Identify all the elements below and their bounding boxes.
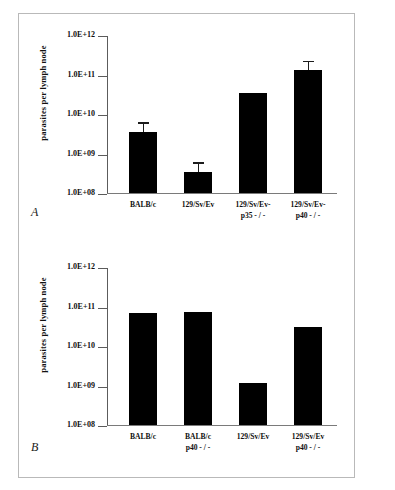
panel-b-ytick-label-1e10: 1.0E+10 [67, 341, 95, 350]
panel-a-ytick-1e12: 1.0E+12 [98, 36, 107, 37]
panel-b-ytick-label-1e09: 1.0E+09 [67, 381, 95, 390]
panel-a-letter: A [31, 205, 38, 220]
panel-a-y-axis-line [107, 36, 108, 194]
panel-a-ytick-1e10: 1.0E+10 [98, 115, 107, 116]
panel-a-x-axis-line [107, 193, 337, 194]
panel-a-xlabel-129svev-p40-line1: 129/Sv/Ev- [271, 199, 345, 210]
panel-b-x-axis-line [107, 425, 337, 426]
panel-a-bar-129svev [184, 172, 212, 194]
panel-b-ytick-label-1e12: 1.0E+12 [67, 262, 95, 271]
panel-a-errorbar-129svev-p40 [308, 62, 309, 71]
panel-a-plot-area: 1.0E+12 1.0E+11 1.0E+10 1.0E+09 1.0E+08 [107, 36, 337, 194]
panel-b-ytick-1e11: 1.0E+11 [98, 308, 107, 309]
panel-b-xlabel-129svev-p40: 129/Sv/Ev p40 - / - [271, 431, 345, 453]
panel-a-ytick-label-1e12: 1.0E+12 [67, 30, 95, 39]
panel-b-ytick-1e12: 1.0E+12 [98, 268, 107, 269]
panel-a-ytick-1e11: 1.0E+11 [98, 76, 107, 77]
panel-a-errorbar-129svev [198, 163, 199, 172]
panel-a-ytick-1e09: 1.0E+09 [98, 155, 107, 156]
panel-a-bar-129svev-p35 [239, 93, 267, 194]
panel-a-bar-balbc [129, 132, 157, 193]
panel-b-xlabel-129svev-p40-line2: p40 - / - [271, 442, 345, 453]
panel-b-letter: B [31, 440, 38, 455]
panel-a: A parasites per lymph node 1.0E+12 1.0E+… [19, 14, 356, 246]
panel-a-y-axis-title: parasites per lymph node [38, 23, 48, 163]
panel-b-ytick-1e10: 1.0E+10 [98, 347, 107, 348]
panel-a-errorbar-cap-129svev-p40 [303, 61, 314, 62]
panel-b-ytick-label-1e08: 1.0E+08 [67, 420, 95, 429]
figure-frame: A parasites per lymph node 1.0E+12 1.0E+… [18, 13, 355, 478]
panel-b-bar-129svev-p40 [294, 327, 322, 425]
panel-a-bar-129svev-p40 [294, 70, 322, 193]
panel-b: B parasites per lymph node 1.0E+12 1.0E+… [19, 246, 356, 479]
panel-a-errorbar-cap-balbc [138, 122, 149, 123]
panel-b-ytick-1e08: 1.0E+08 [98, 426, 107, 427]
panel-a-errorbar-cap-129svev [193, 162, 204, 163]
panel-b-bar-129svev [239, 383, 267, 426]
panel-a-xlabel-129svev-p40-line2: p40 - / - [271, 210, 345, 221]
panel-a-errorbar-balbc [143, 123, 144, 132]
panel-b-y-axis-title: parasites per lymph node [38, 255, 48, 395]
panel-b-bar-balbc [129, 313, 157, 425]
panel-b-xlabel-129svev-p40-line1: 129/Sv/Ev [271, 431, 345, 442]
panel-a-ytick-1e08: 1.0E+08 [98, 194, 107, 195]
panel-a-xlabel-129svev-p40: 129/Sv/Ev- p40 - / - [271, 199, 345, 221]
panel-a-ytick-label-1e11: 1.0E+11 [68, 70, 95, 79]
panel-b-xlabel-balbc-p40-line2: p40 - / - [161, 442, 235, 453]
panel-a-ytick-label-1e09: 1.0E+09 [67, 149, 95, 158]
panel-b-plot-area: 1.0E+12 1.0E+11 1.0E+10 1.0E+09 1.0E+08 [107, 268, 337, 426]
panel-a-ytick-label-1e10: 1.0E+10 [67, 109, 95, 118]
panel-a-ytick-label-1e08: 1.0E+08 [67, 188, 95, 197]
panel-b-ytick-1e09: 1.0E+09 [98, 387, 107, 388]
panel-b-ytick-label-1e11: 1.0E+11 [68, 302, 95, 311]
panel-b-bar-balbc-p40 [184, 312, 212, 426]
panel-b-y-axis-line [107, 268, 108, 426]
